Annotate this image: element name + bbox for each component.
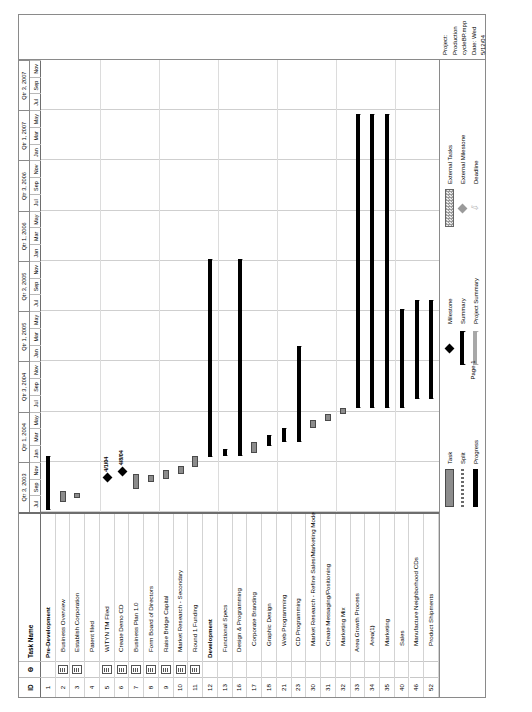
timeline-quarter-label: Qtr 1, 2006 bbox=[19, 211, 30, 261]
gridline-horizontal bbox=[218, 60, 219, 512]
gantt-summary-bar[interactable] bbox=[208, 259, 212, 457]
table-row[interactable]: 52Product Shipments bbox=[424, 514, 439, 697]
table-row[interactable]: 4Patent filed bbox=[85, 514, 100, 697]
table-row[interactable]: 7Business Plan 1.0 bbox=[129, 514, 144, 697]
legend-label: Task bbox=[447, 452, 453, 464]
note-icon[interactable] bbox=[161, 665, 171, 674]
table-header-row: ID Θ Task Name bbox=[19, 514, 41, 697]
note-icon[interactable] bbox=[72, 665, 82, 674]
table-row[interactable]: 13Functional Specs bbox=[218, 514, 233, 697]
table-row[interactable]: 46Manufacture Neighborhood CDs bbox=[410, 514, 425, 697]
gantt-task-bar[interactable] bbox=[163, 470, 169, 479]
row-id: 52 bbox=[424, 677, 438, 697]
row-task-name: Marketing Mix bbox=[336, 512, 350, 661]
note-icon[interactable] bbox=[117, 665, 127, 674]
table-row[interactable]: 1Pre-Development bbox=[41, 514, 56, 697]
row-indicator-cell bbox=[321, 661, 335, 677]
note-icon[interactable] bbox=[190, 665, 200, 674]
note-icon[interactable] bbox=[146, 665, 156, 674]
timeline-month-label: Jan bbox=[30, 345, 41, 362]
row-indicator-cell bbox=[115, 661, 129, 677]
legend-item: Summary bbox=[456, 247, 469, 367]
timeline-month-label: Jul bbox=[30, 94, 41, 111]
summary-cap-right bbox=[208, 259, 213, 263]
row-id: 17 bbox=[247, 677, 261, 697]
gantt-summary-bar[interactable] bbox=[415, 300, 419, 399]
gantt-summary-bar[interactable] bbox=[429, 300, 433, 399]
note-icon[interactable] bbox=[131, 665, 141, 674]
table-row[interactable]: 11Round 1 Funding bbox=[188, 514, 203, 697]
note-icon[interactable] bbox=[176, 665, 186, 674]
summary-cap-left bbox=[267, 442, 272, 446]
gantt-summary-bar[interactable] bbox=[267, 435, 271, 446]
table-row[interactable]: 32Marketing Mix bbox=[336, 514, 351, 697]
table-row[interactable]: 33Area Growth Process bbox=[351, 514, 366, 697]
gantt-milestone[interactable] bbox=[117, 466, 127, 476]
legend-label: Milestone bbox=[447, 298, 453, 324]
note-icon[interactable] bbox=[58, 665, 68, 674]
gantt-task-bar[interactable] bbox=[340, 408, 346, 414]
gantt-task-bar[interactable] bbox=[178, 466, 184, 474]
table-row[interactable]: 2Business Overview bbox=[56, 514, 71, 697]
table-row[interactable]: 8Form Board of Directors bbox=[144, 514, 159, 697]
gantt-summary-bar[interactable] bbox=[356, 114, 360, 408]
table-row[interactable]: 10Market Research - Secondary bbox=[174, 514, 189, 697]
task-table: ID Θ Task Name 1Pre-Development2Business… bbox=[19, 512, 439, 697]
table-row[interactable]: 12Development bbox=[203, 514, 218, 697]
row-task-name: Corporate Branding bbox=[247, 512, 261, 661]
header-task-name: Task Name bbox=[19, 512, 41, 661]
timeline-month-label: Nov bbox=[30, 160, 41, 177]
gantt-task-bar[interactable] bbox=[192, 456, 198, 467]
table-row[interactable]: 18Graphic Design bbox=[262, 514, 277, 697]
gantt-summary-bar[interactable] bbox=[46, 456, 50, 511]
gantt-summary-bar[interactable] bbox=[238, 259, 242, 457]
row-id: 40 bbox=[395, 677, 409, 697]
gantt-milestone[interactable] bbox=[103, 473, 113, 483]
table-row[interactable]: 16Design & Programming bbox=[233, 514, 248, 697]
table-row[interactable]: 3Establish Corporation bbox=[70, 514, 85, 697]
summary-cap-right bbox=[429, 300, 434, 304]
timeline-quarter-label: Qtr 1, 2004 bbox=[19, 412, 30, 462]
table-row[interactable]: 9Raise Bridge Capital bbox=[159, 514, 174, 697]
timeline-month-label: May bbox=[30, 412, 41, 429]
table-row[interactable]: 30Market Research - Refine Sales/Marketi… bbox=[306, 514, 321, 697]
table-row[interactable]: 6Create Demo CD bbox=[115, 514, 130, 697]
gantt-summary-bar[interactable] bbox=[282, 428, 286, 442]
table-row[interactable]: 23CD Programming bbox=[292, 514, 307, 697]
gantt-task-bar[interactable] bbox=[310, 420, 316, 428]
table-row[interactable]: 35Marketing bbox=[380, 514, 395, 697]
gantt-summary-bar[interactable] bbox=[370, 114, 374, 408]
gantt-task-bar[interactable] bbox=[60, 491, 66, 502]
row-indicator-cell bbox=[188, 661, 202, 677]
summary-cap-right bbox=[223, 449, 228, 453]
page-number: Page 1 bbox=[470, 28, 476, 712]
timeline-quarter-label: Qtr 3, 2003 bbox=[19, 462, 30, 512]
table-row[interactable]: 31Create Messaging/Positioning bbox=[321, 514, 336, 697]
table-row[interactable]: 40Sales bbox=[395, 514, 410, 697]
table-row[interactable]: 34Area(1) bbox=[365, 514, 380, 697]
gantt-summary-bar[interactable] bbox=[400, 309, 404, 408]
summary-cap-left bbox=[282, 438, 287, 442]
row-id: 18 bbox=[262, 677, 276, 697]
row-id: 10 bbox=[174, 677, 188, 697]
gantt-summary-bar[interactable] bbox=[223, 449, 227, 457]
note-icon[interactable] bbox=[102, 665, 112, 674]
gantt-summary-bar[interactable] bbox=[297, 346, 301, 443]
row-indicator-cell bbox=[41, 661, 55, 677]
row-id: 16 bbox=[233, 677, 247, 697]
gantt-task-bar[interactable] bbox=[148, 475, 154, 482]
gantt-task-bar[interactable] bbox=[74, 493, 80, 498]
legend-swatch-split bbox=[461, 469, 464, 507]
gridline-horizontal bbox=[277, 60, 278, 512]
timeline-month-label: Nov bbox=[30, 60, 41, 77]
row-id: 30 bbox=[306, 677, 320, 697]
summary-cap-left bbox=[370, 404, 375, 408]
gantt-task-bar[interactable] bbox=[251, 442, 257, 453]
gantt-task-bar[interactable] bbox=[325, 414, 331, 420]
table-row[interactable]: 17Corporate Branding bbox=[247, 514, 262, 697]
gantt-task-bar[interactable] bbox=[133, 474, 139, 489]
table-row[interactable]: 5WITYN TM Filed bbox=[100, 514, 115, 697]
row-task-name: Market Research - Secondary bbox=[174, 512, 188, 661]
gantt-summary-bar[interactable] bbox=[385, 114, 389, 408]
table-row[interactable]: 21Web Programming bbox=[277, 514, 292, 697]
